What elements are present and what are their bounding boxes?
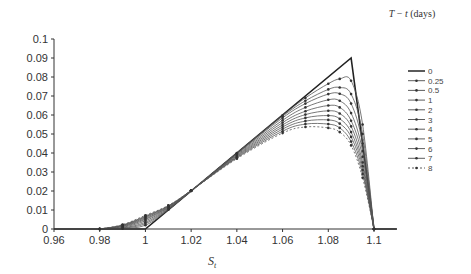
legend-label: 0: [428, 67, 433, 76]
legend-item: 0.25: [408, 77, 444, 86]
data-point: [350, 102, 353, 105]
legend-marker: [415, 99, 418, 102]
data-point: [167, 204, 170, 207]
legend-marker: [415, 79, 418, 82]
y-tick-label: 0.02: [27, 185, 48, 197]
legend-item: 6: [408, 145, 433, 154]
data-point: [350, 93, 353, 96]
data-point: [327, 123, 330, 126]
data-point: [327, 104, 330, 107]
y-tick-label: 0.08: [27, 71, 48, 83]
legend-label: 5: [428, 135, 433, 144]
legend-item: 3: [408, 116, 433, 125]
legend-label: 0.25: [428, 77, 444, 86]
series-7: [98, 123, 375, 231]
y-tick-label: 0.1: [33, 33, 48, 45]
legend-item: 4: [408, 125, 433, 134]
y-tick-label: 0.03: [27, 166, 48, 178]
data-point: [304, 123, 307, 126]
data-point: [327, 82, 330, 85]
series-8: [98, 126, 375, 231]
x-tick-label: 1.02: [180, 234, 201, 246]
y-tick-label: 0.06: [27, 109, 48, 121]
series-0: [54, 58, 397, 229]
data-point: [338, 100, 341, 103]
legend-label: 3: [428, 116, 433, 125]
x-axis-label-subscript: t: [214, 261, 217, 270]
legend-item: 0: [408, 67, 433, 76]
legend-label: 7: [428, 154, 433, 163]
legend-title-minus: −: [394, 8, 405, 19]
data-point: [304, 106, 307, 109]
x-tick-label: 0.98: [89, 234, 110, 246]
series-line: [100, 116, 374, 229]
legend-marker: [415, 167, 418, 170]
x-axis-label: St: [208, 254, 217, 270]
legend-title: T − t (days): [389, 8, 435, 20]
x-tick-label: 1.1: [366, 234, 381, 246]
data-point: [236, 157, 239, 160]
data-point: [350, 131, 353, 134]
data-point: [281, 119, 284, 122]
data-point: [304, 126, 307, 129]
legend-marker: [415, 109, 418, 112]
data-point: [338, 106, 341, 109]
series-line: [54, 58, 397, 229]
data-point: [327, 99, 330, 102]
data-point: [338, 86, 341, 89]
data-point: [281, 117, 284, 120]
data-point: [361, 133, 364, 136]
data-point: [304, 113, 307, 116]
legend-item: 8: [408, 164, 433, 173]
data-point: [350, 144, 353, 147]
y-tick-label: 0.04: [27, 147, 48, 159]
data-point: [281, 132, 284, 135]
data-point: [338, 127, 341, 130]
data-point: [304, 120, 307, 123]
data-point: [338, 118, 341, 121]
y-axis-ticks: 00.010.020.030.040.050.060.070.080.090.1: [27, 33, 54, 235]
data-point: [190, 189, 193, 192]
data-point: [327, 110, 330, 113]
legend-marker: [415, 147, 418, 150]
legend-marker: [415, 128, 418, 131]
data-point: [361, 142, 364, 145]
legend: T − t (days) 00.250.512345678: [389, 8, 444, 173]
series-line: [100, 120, 374, 229]
data-point: [281, 121, 284, 124]
data-point: [121, 223, 124, 226]
legend-label: 4: [428, 125, 433, 134]
data-point: [350, 119, 353, 122]
series-line: [100, 123, 374, 229]
data-point: [304, 97, 307, 100]
legend-item: 1: [408, 96, 433, 105]
legend-items: 00.250.512345678: [408, 67, 444, 173]
series-line: [100, 111, 374, 229]
legend-label: 8: [428, 164, 433, 173]
series-line: [100, 105, 374, 229]
series-5: [98, 114, 375, 230]
data-point: [350, 80, 353, 83]
legend-item: 0.5: [408, 86, 440, 95]
legend-label: 6: [428, 145, 433, 154]
data-point: [327, 93, 330, 96]
data-point: [304, 102, 307, 105]
data-point: [327, 119, 330, 122]
data-point: [350, 140, 353, 143]
legend-label: 0.5: [428, 86, 440, 95]
x-axis-ticks: 0.960.9811.021.041.061.081.1: [43, 229, 381, 246]
legend-title-unit: (days): [408, 8, 436, 20]
legend-item: 2: [408, 106, 433, 115]
legend-item: 7: [408, 154, 433, 163]
data-point: [338, 122, 341, 125]
data-point: [304, 100, 307, 103]
y-tick-label: 0.01: [27, 204, 48, 216]
data-point: [350, 136, 353, 139]
legend-label: 2: [428, 106, 433, 115]
data-point: [338, 112, 341, 115]
plot-area: [54, 58, 397, 230]
legend-marker: [415, 89, 418, 92]
legend-marker: [415, 138, 418, 141]
series-2: [98, 99, 375, 231]
x-tick-label: 1.04: [226, 234, 247, 246]
